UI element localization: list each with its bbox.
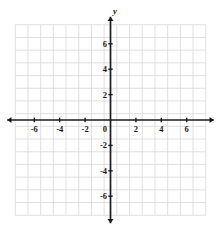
y-tick-label: 2 xyxy=(103,90,107,99)
y-tick-label: -2 xyxy=(100,141,107,150)
axes xyxy=(7,17,214,224)
y-axis-arrow-positive xyxy=(108,17,114,21)
origin-label: 0 xyxy=(103,125,107,134)
y-tick-label: 6 xyxy=(103,40,107,49)
y-axis-label: y xyxy=(113,7,117,16)
x-axis-arrow-positive xyxy=(210,117,214,123)
y-tick-label: 4 xyxy=(103,65,107,74)
x-tick-label: -4 xyxy=(56,125,63,134)
y-tick-label: -6 xyxy=(100,192,107,201)
x-tick-label: 2 xyxy=(134,125,138,134)
x-tick-label: 6 xyxy=(185,125,189,134)
x-tick-label: -6 xyxy=(31,125,38,134)
y-axis-arrow-negative xyxy=(108,219,114,223)
x-tick-label: 4 xyxy=(159,125,163,134)
x-axis-arrow-negative xyxy=(7,117,11,123)
graph-canvas xyxy=(0,0,216,225)
coordinate-plane: y x 0 -6-4-2246642-2-4-6 xyxy=(0,0,216,225)
y-tick-label: -4 xyxy=(100,167,107,176)
x-tick-label: -2 xyxy=(82,125,89,134)
